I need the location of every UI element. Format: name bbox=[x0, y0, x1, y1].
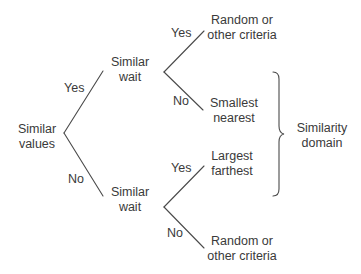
edge-label-upper-no: No bbox=[173, 94, 189, 109]
brace-label-line1: Similarity bbox=[290, 121, 354, 136]
leaf-random-upper: Random or other criteria bbox=[204, 13, 280, 43]
leaf-label-line1: Random or bbox=[204, 234, 280, 249]
decision-tree-diagram: Similar values Yes No Similar wait Simil… bbox=[0, 0, 361, 274]
node-label-line1: Similar bbox=[12, 122, 62, 137]
leaf-label-line1: Random or bbox=[204, 13, 280, 28]
node-label-line2: wait bbox=[106, 200, 154, 215]
edge-label-lower-no: No bbox=[167, 226, 183, 241]
node-label-line2: wait bbox=[106, 70, 154, 85]
leaf-label-line2: farthest bbox=[206, 164, 258, 179]
leaf-label-line2: nearest bbox=[206, 111, 262, 126]
leaf-label-line2: other criteria bbox=[204, 28, 280, 43]
node-similar-values: Similar values bbox=[12, 122, 62, 152]
node-similar-wait-lower: Similar wait bbox=[106, 185, 154, 215]
leaf-random-lower: Random or other criteria bbox=[204, 234, 280, 264]
leaf-label-line1: Smallest bbox=[206, 96, 262, 111]
edge-label-lower-yes: Yes bbox=[171, 161, 191, 176]
edge-label-root-yes: Yes bbox=[64, 81, 84, 96]
node-label-line2: values bbox=[12, 137, 62, 152]
node-label-line1: Similar bbox=[106, 55, 154, 70]
leaf-smallest-nearest: Smallest nearest bbox=[206, 96, 262, 126]
similarity-domain-label: Similarity domain bbox=[290, 121, 354, 151]
leaf-largest-farthest: Largest farthest bbox=[206, 149, 258, 179]
leaf-label-line1: Largest bbox=[206, 149, 258, 164]
node-label-line1: Similar bbox=[106, 185, 154, 200]
brace-label-line2: domain bbox=[290, 136, 354, 151]
leaf-label-line2: other criteria bbox=[204, 249, 280, 264]
edge-label-root-no: No bbox=[68, 172, 84, 187]
curly-brace-icon bbox=[273, 72, 284, 196]
node-similar-wait-upper: Similar wait bbox=[106, 55, 154, 85]
edge-label-upper-yes: Yes bbox=[171, 26, 191, 41]
